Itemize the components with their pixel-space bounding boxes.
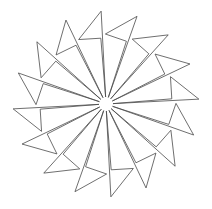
flag-unit: [18, 73, 99, 105]
flag-unit: [22, 107, 100, 154]
flag-unit: [113, 103, 194, 135]
flag-unit: [56, 20, 103, 98]
flag-unit: [112, 54, 190, 101]
flag-unit: [105, 16, 137, 97]
pinwheel-diagram: [0, 0, 212, 209]
pinwheel-units: [13, 11, 199, 197]
flag-unit: [109, 110, 156, 188]
flag-unit: [75, 111, 107, 192]
